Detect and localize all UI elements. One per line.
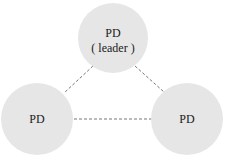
edges bbox=[64, 66, 164, 119]
pd-cluster-diagram: PD ( leader ) PD PD bbox=[0, 0, 230, 161]
node-left: PD bbox=[1, 83, 73, 155]
node-sublabel: ( leader ) bbox=[91, 41, 134, 55]
node-leader: PD ( leader ) bbox=[78, 3, 148, 73]
edge-top-left bbox=[64, 66, 93, 93]
node-label: PD bbox=[29, 112, 45, 126]
node-label: PD bbox=[105, 26, 121, 40]
node-right: PD bbox=[151, 83, 223, 155]
edge-top-right bbox=[135, 66, 164, 92]
node-label: PD bbox=[179, 112, 195, 126]
